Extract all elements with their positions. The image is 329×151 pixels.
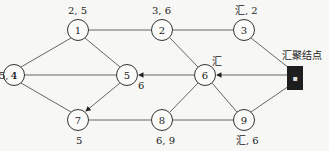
- node-label: 3: [241, 25, 247, 36]
- node-2-annotation: 3, 6: [152, 5, 171, 16]
- node-7: 7: [67, 109, 89, 131]
- node-4-annotation: 5, 1: [0, 70, 18, 81]
- sink-label: 汇聚结点: [282, 50, 322, 61]
- node-label: 5: [124, 70, 130, 81]
- node-9-annotation: 汇, 6: [236, 135, 259, 146]
- node-label: 6: [202, 70, 208, 81]
- node-label: 1: [75, 25, 81, 36]
- node-label: 2: [159, 25, 165, 36]
- node-8: 8: [151, 109, 173, 131]
- node-5-annotation: 6: [138, 80, 144, 91]
- node-9: 9: [233, 109, 255, 131]
- node-3-annotation: 汇, 2: [235, 5, 258, 16]
- network-diagram: 1 2 3 4 5 6 7 8 9 ▪ 2, 5 3, 6 汇, 2 5, 1 …: [0, 0, 329, 151]
- sink-node-icon: ▪: [287, 66, 303, 90]
- node-1-annotation: 2, 5: [68, 5, 87, 16]
- node-2: 2: [151, 19, 173, 41]
- node-6-annotation: 汇: [212, 56, 222, 67]
- node-label: 7: [75, 115, 81, 126]
- node-5: 5: [116, 64, 138, 86]
- node-7-annotation: 5: [76, 135, 82, 146]
- node-6: 6: [194, 64, 216, 86]
- node-8-annotation: 6, 9: [156, 135, 175, 146]
- node-label: 9: [241, 115, 247, 126]
- node-label: 8: [159, 115, 165, 126]
- node-1: 1: [67, 19, 89, 41]
- node-3: 3: [233, 19, 255, 41]
